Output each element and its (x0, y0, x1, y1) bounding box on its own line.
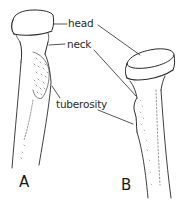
bone-a (12, 10, 54, 168)
figure-label-a: A (19, 175, 29, 190)
bone-b (126, 49, 175, 198)
label-head: head (68, 18, 93, 29)
label-tuberosity: tuberosity (56, 99, 107, 110)
label-neck: neck (67, 39, 91, 50)
diagram-canvas: head neck tuberosity A B (0, 0, 186, 209)
figure-label-b: B (121, 178, 131, 193)
